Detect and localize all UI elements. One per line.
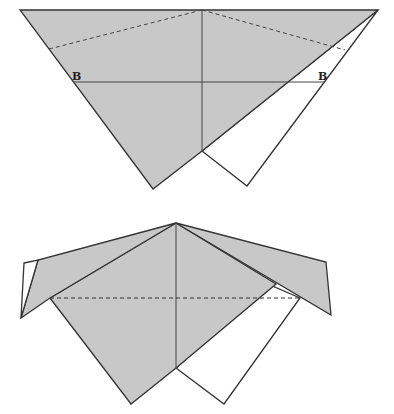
label-b-right: B [318, 70, 327, 83]
colored-paper [20, 10, 378, 189]
label-b-left: B [72, 70, 81, 83]
step-2-figure [21, 223, 331, 404]
origami-diagram: B B [0, 0, 394, 414]
step-1-figure: B B [20, 10, 378, 189]
